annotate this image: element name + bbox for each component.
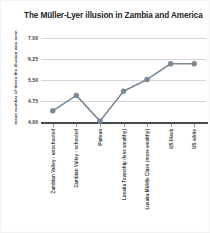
plot-area: 4.004.755.506.257.00 Zambian Valley - un…: [41, 38, 206, 122]
data-point: [168, 61, 173, 66]
chart-title: The Müller-Lyer illusion in Zambia and A…: [24, 11, 204, 21]
x-axis-tick-mark: [76, 124, 77, 127]
x-axis-tick-mark: [53, 124, 54, 127]
data-point: [50, 108, 55, 113]
y-axis-tick-label: 6.25: [28, 56, 38, 62]
x-axis-tick-mark: [124, 124, 125, 127]
data-point: [74, 93, 79, 98]
data-point: [192, 61, 197, 66]
x-axis-category-label: Zambian Valley - schooled: [74, 129, 79, 188]
y-axis-tick-label: 4.75: [28, 98, 38, 104]
chart-container: The Müller-Lyer illusion in Zambia and A…: [4, 3, 206, 230]
x-axis-category-label: US black: [168, 129, 173, 149]
x-axis-tick-mark: [100, 124, 101, 127]
chart-screenshot: The Müller-Lyer illusion in Zambia and A…: [0, 0, 210, 233]
y-axis-tick-label: 5.50: [28, 77, 38, 83]
data-point: [145, 77, 150, 82]
x-axis-category-label: Zambian Valley - unschooled: [50, 129, 55, 193]
x-axis-tick-mark: [147, 124, 148, 127]
x-axis-tick-mark: [194, 124, 195, 127]
x-axis-category-label: Plateau: [97, 129, 102, 146]
x-axis-tick-mark: [171, 124, 172, 127]
x-axis-category-label: US white: [192, 129, 197, 149]
data-point: [121, 89, 126, 94]
y-axis-label: mean number of times the illusion was se…: [13, 23, 18, 133]
y-axis-tick-label: 7.00: [28, 35, 38, 41]
x-axis-line: [41, 122, 208, 124]
data-series-line: [41, 38, 206, 122]
x-axis-category-label: Lusaka Township (less wealthy): [121, 129, 126, 200]
x-axis-category-label: Lusaka Middle Class (more wealthy): [145, 129, 150, 210]
data-point: [97, 119, 102, 124]
data-point-markers: [50, 61, 196, 123]
y-axis-tick-label: 4.00: [28, 119, 38, 125]
